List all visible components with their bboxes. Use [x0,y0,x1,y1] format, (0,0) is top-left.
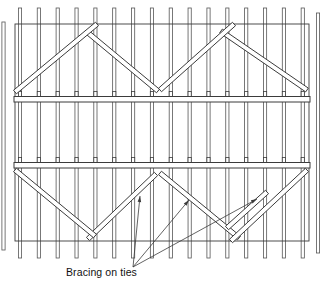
tie-joint-tick [226,92,229,97]
tie-joint-tick [245,158,248,163]
bottom-right-rising-brace [229,168,308,242]
tie-joint-tick [207,158,210,163]
tie-joint-tick [188,158,191,163]
tie-joint-tick [94,158,97,163]
tie-joint-tick [169,92,172,97]
tie-joint-tick [75,92,78,97]
tie-joint-tick [282,92,285,97]
tie-beam [14,97,310,103]
stud [226,8,229,258]
stud [188,8,191,258]
tie-joint-tick [150,92,153,97]
tie-joint-tick [207,92,210,97]
leader-line [133,200,189,267]
leader-arrowhead [138,196,142,202]
tie-joint-tick [301,158,304,163]
tie-joint-tick [113,92,116,97]
tie-joint-tick [132,158,135,163]
tie-joint-tick [56,158,59,163]
stud [150,8,153,258]
tie-joint-tick [301,92,304,97]
bottom-left-falling-brace [14,168,97,238]
partial-stud [2,22,5,250]
tie-joint-tick [226,158,229,163]
stud [37,8,40,258]
tie-joint-tick [18,158,21,163]
tie-joint-tick [132,92,135,97]
stud [18,8,21,258]
tie-joint-tick [37,92,40,97]
tie-joint-tick [263,92,266,97]
tie-joint-tick [94,92,97,97]
tie-joint-tick [169,158,172,163]
stud [282,8,285,258]
stud [263,8,266,258]
tie-joint-tick [56,92,59,97]
tie-joint-tick [282,158,285,163]
figure: Bracing on ties [0,0,323,284]
figure-caption: Bracing on ties [66,267,137,279]
tie-joint-tick [75,158,78,163]
tie-joint-tick [37,158,40,163]
bracing-diagram [0,0,323,284]
stud [94,8,97,258]
tie-beam [14,163,310,169]
stud [113,8,116,258]
tie-joint-tick [245,92,248,97]
stud [56,8,59,258]
tie-joint-tick [150,158,153,163]
partial-stud [316,13,319,253]
tie-joint-tick [263,158,266,163]
tie-joint-tick [188,92,191,97]
stud [132,8,135,258]
tie-joint-tick [113,158,116,163]
stud [301,8,304,258]
